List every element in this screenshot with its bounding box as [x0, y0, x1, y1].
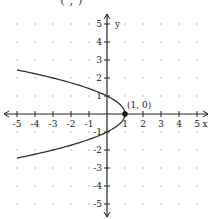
grid-dot [196, 95, 198, 97]
y-tick-label: 4 [96, 37, 102, 47]
grid-dot [88, 41, 90, 43]
x-tick-label: 2 [140, 119, 146, 129]
grid-dot [124, 203, 126, 205]
grid-dot [160, 131, 162, 133]
y-tick-label: -4 [93, 181, 102, 191]
grid-dot [124, 59, 126, 61]
grid-dot [142, 77, 144, 79]
grid-dot [34, 59, 36, 61]
grid-dot [160, 95, 162, 97]
grid-dot [88, 77, 90, 79]
x-tick-label: -5 [13, 119, 22, 129]
grid-dot [88, 185, 90, 187]
y-tick-label: 3 [96, 55, 102, 65]
grid-dot [124, 95, 126, 97]
grid-dot [196, 77, 198, 79]
grid-dot [70, 131, 72, 133]
grid-dot [16, 149, 18, 151]
grid-dot [160, 41, 162, 43]
grid-dot [142, 185, 144, 187]
grid-dot [160, 59, 162, 61]
grid-dot [196, 23, 198, 25]
grid-dot [124, 41, 126, 43]
grid-dot [160, 23, 162, 25]
coordinate-plane: -5-4-3-2-11234554321-1-2-3-4-5xy(1, 0) [0, 0, 212, 219]
grid-dot [16, 23, 18, 25]
grid-dot [178, 203, 180, 205]
grid-dot [16, 41, 18, 43]
grid-dot [178, 41, 180, 43]
grid-dot [196, 131, 198, 133]
grid-dot [34, 23, 36, 25]
x-tick-label: -1 [85, 119, 94, 129]
y-tick-label: 5 [96, 19, 102, 29]
grid-dot [16, 59, 18, 61]
grid-dot [178, 131, 180, 133]
grid-dot [160, 203, 162, 205]
grid-dot [52, 95, 54, 97]
grid-dot [34, 167, 36, 169]
grid-dot [70, 185, 72, 187]
grid-dot [142, 59, 144, 61]
y-tick-label: 2 [96, 73, 102, 83]
grid-dot [142, 149, 144, 151]
grid-dot [160, 149, 162, 151]
grid-dot [34, 41, 36, 43]
y-tick-label: -2 [93, 145, 102, 155]
grid-dot [88, 167, 90, 169]
grid-dot [34, 95, 36, 97]
grid-dot [196, 167, 198, 169]
grid-dot [16, 131, 18, 133]
grid-dot [16, 95, 18, 97]
grid-dot [124, 149, 126, 151]
grid-dot [70, 203, 72, 205]
grid-dot [142, 23, 144, 25]
grid-dot [88, 203, 90, 205]
x-tick-label: -2 [67, 119, 76, 129]
x-tick-label: 4 [176, 119, 182, 129]
grid-dot [124, 185, 126, 187]
grid-dot [196, 149, 198, 151]
y-tick-label: -5 [93, 199, 102, 209]
grid-dot [196, 203, 198, 205]
y-axis-label: y [114, 19, 121, 29]
x-axis-label: x [202, 119, 207, 129]
grid-dot [16, 185, 18, 187]
grid-dot [34, 77, 36, 79]
grid-dot [88, 23, 90, 25]
grid-dot [142, 203, 144, 205]
grid-dot [70, 95, 72, 97]
grid-dot [88, 59, 90, 61]
grid-dot [124, 131, 126, 133]
grid-dot [178, 149, 180, 151]
grid-dot [52, 23, 54, 25]
x-tick-label: 5 [194, 119, 200, 129]
grid-dot [196, 59, 198, 61]
grid-dot [16, 203, 18, 205]
grid-dot [16, 77, 18, 79]
grid-dot [178, 185, 180, 187]
grid-dot [124, 77, 126, 79]
y-tick-label: -3 [93, 163, 102, 173]
grid-dot [124, 23, 126, 25]
grid-dot [52, 59, 54, 61]
grid-dot [70, 167, 72, 169]
grid-dot [196, 41, 198, 43]
grid-dot [34, 185, 36, 187]
x-tick-label: -3 [49, 119, 58, 129]
grid-dot [70, 59, 72, 61]
grid-dot [34, 149, 36, 151]
grid-dot [88, 131, 90, 133]
grid-dot [142, 95, 144, 97]
grid-dot [88, 95, 90, 97]
grid-dot [52, 203, 54, 205]
grid-dot [16, 167, 18, 169]
grid-dot [70, 23, 72, 25]
grid-dot [178, 95, 180, 97]
grid-dot [160, 167, 162, 169]
grid-dot [34, 203, 36, 205]
x-tick-label: 3 [158, 119, 164, 129]
x-tick-label: -4 [31, 119, 40, 129]
grid-dot [88, 149, 90, 151]
grid-dot [160, 185, 162, 187]
